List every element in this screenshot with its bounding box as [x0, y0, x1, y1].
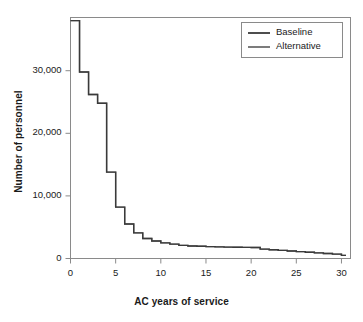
legend-label-baseline: Baseline [276, 26, 312, 37]
y-tick-label: 10,000 [0, 189, 62, 200]
chart-figure: 010,00020,00030,000 051015202530 Baselin… [0, 0, 363, 322]
x-tick-label: 30 [321, 267, 361, 278]
legend-label-alternative: Alternative [276, 40, 321, 51]
y-tick-label: 30,000 [0, 64, 62, 75]
x-tick-label: 10 [141, 267, 181, 278]
y-tick-label: 20,000 [0, 126, 62, 137]
x-tick-label: 20 [231, 267, 271, 278]
y-axis-title: Number of personnel [13, 62, 24, 222]
x-axis-title: AC years of service [0, 296, 363, 307]
x-tick-label: 0 [51, 267, 91, 278]
x-tick-label: 5 [96, 267, 136, 278]
x-tick-label: 25 [276, 267, 316, 278]
y-axis-ticks [66, 71, 71, 259]
y-tick-label: 0 [0, 252, 62, 263]
x-tick-label: 15 [186, 267, 226, 278]
x-axis-ticks [71, 259, 342, 264]
